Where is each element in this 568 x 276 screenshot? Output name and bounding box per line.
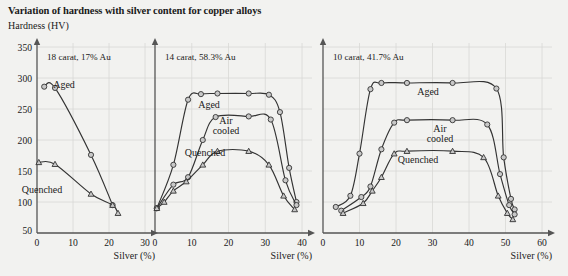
- panel-title: 14 carat, 58.3% Au: [165, 52, 236, 62]
- x-tick-label: 30: [260, 237, 270, 248]
- series-line: [157, 93, 297, 208]
- x-tick-label: 30: [140, 237, 150, 248]
- x-axis-caption: Silver (%): [511, 250, 552, 262]
- y-tick-label: 250: [18, 104, 33, 115]
- y-tick-label: 100: [18, 197, 33, 208]
- x-axis-caption: Silver (%): [114, 250, 155, 262]
- curve-label-aged: Aged: [417, 86, 439, 97]
- data-point-marker: [392, 120, 397, 125]
- data-point-marker: [281, 193, 287, 198]
- x-tick-label: 50: [501, 237, 511, 248]
- data-point-marker: [213, 114, 218, 119]
- series-line: [336, 81, 515, 209]
- x-tick-label: 40: [297, 237, 307, 248]
- panel-title: 10 carat, 41.7% Au: [333, 52, 404, 62]
- y-tick-label: 200: [18, 135, 33, 146]
- y-tick-label: 300: [18, 73, 33, 84]
- data-point-marker: [379, 174, 385, 179]
- curve-label-aged: Aged: [53, 79, 75, 90]
- y-tick-label: 350: [18, 42, 33, 53]
- curve-label-air-cooled: cooled: [213, 125, 240, 136]
- data-point-marker: [266, 92, 271, 97]
- curve-label-air-cooled: cooled: [427, 133, 454, 144]
- data-point-marker: [215, 91, 220, 96]
- chart-plot-area: 501001502002503003500102030Silver (%)18 …: [0, 0, 568, 276]
- data-point-marker: [283, 178, 288, 183]
- panel-2: 010203040Silver (%)14 carat, 58.3% Au: [152, 38, 315, 262]
- data-point-marker: [379, 147, 384, 152]
- x-tick-label: 10: [355, 237, 365, 248]
- curve-label-aged: Aged: [198, 99, 220, 110]
- data-point-marker: [507, 203, 512, 208]
- y-tick-label: 150: [18, 166, 33, 177]
- x-tick-label: 10: [68, 237, 78, 248]
- data-point-marker: [501, 155, 506, 160]
- data-point-marker: [357, 151, 362, 156]
- panel-title: 18 carat, 17% Au: [47, 52, 111, 62]
- data-point-marker: [185, 97, 190, 102]
- data-point-marker: [277, 110, 282, 115]
- figure-title: Variation of hardness with silver conten…: [8, 5, 261, 16]
- data-point-marker: [333, 204, 338, 209]
- panel-3: 0102030405060Silver (%)10 carat, 41.7% A…: [320, 38, 555, 262]
- x-axis-caption: Silver (%): [271, 250, 312, 262]
- x-tick-label: 40: [464, 237, 474, 248]
- x-axis-arrow: [548, 230, 555, 236]
- data-point-marker: [404, 118, 409, 123]
- data-point-marker: [198, 92, 203, 97]
- panel-1: 501001502002503003500102030Silver (%)18 …: [18, 38, 158, 262]
- data-point-marker: [171, 182, 176, 187]
- data-point-marker: [348, 193, 353, 198]
- data-point-marker: [368, 87, 373, 92]
- data-point-marker: [450, 118, 455, 123]
- data-point-marker: [450, 80, 455, 85]
- data-point-marker: [497, 172, 502, 177]
- x-tick-label: 20: [104, 237, 114, 248]
- x-axis-arrow: [308, 230, 315, 236]
- data-point-marker: [42, 84, 47, 89]
- data-point-marker: [246, 114, 251, 119]
- series-line: [157, 149, 295, 209]
- x-tick-label: 0: [321, 237, 326, 248]
- x-tick-label: 60: [537, 237, 547, 248]
- x-tick-label: 0: [153, 237, 158, 248]
- y-axis-arrow: [320, 38, 326, 45]
- data-point-marker: [495, 193, 501, 198]
- data-point-marker: [171, 162, 176, 167]
- curve-label-quenched: Quenched: [398, 154, 439, 165]
- data-point-marker: [246, 91, 251, 96]
- data-point-marker: [287, 165, 292, 170]
- x-tick-label: 10: [187, 237, 197, 248]
- curve-label-quenched: Quenched: [22, 184, 63, 195]
- data-point-marker: [200, 137, 205, 142]
- series-aged: [333, 80, 517, 212]
- data-point-marker: [359, 194, 364, 199]
- figure-container: Variation of hardness with silver conten…: [0, 0, 568, 276]
- data-point-marker: [494, 86, 499, 91]
- x-tick-label: 20: [224, 237, 234, 248]
- data-point-marker: [404, 80, 409, 85]
- data-point-marker: [115, 210, 121, 215]
- data-point-marker: [379, 80, 384, 85]
- data-point-marker: [508, 196, 513, 201]
- y-axis-arrow: [152, 38, 158, 45]
- data-point-marker: [52, 161, 58, 166]
- y-axis-label: Hardness (HV): [8, 20, 69, 31]
- curve-label-quenched: Quenched: [185, 147, 226, 158]
- data-point-marker: [88, 152, 93, 157]
- y-axis-arrow: [34, 38, 40, 45]
- x-tick-label: 20: [391, 237, 401, 248]
- data-point-marker: [485, 122, 490, 127]
- x-tick-label: 0: [35, 237, 40, 248]
- y-tick-label: 50: [22, 225, 32, 236]
- x-tick-label: 30: [428, 237, 438, 248]
- data-point-marker: [268, 117, 273, 122]
